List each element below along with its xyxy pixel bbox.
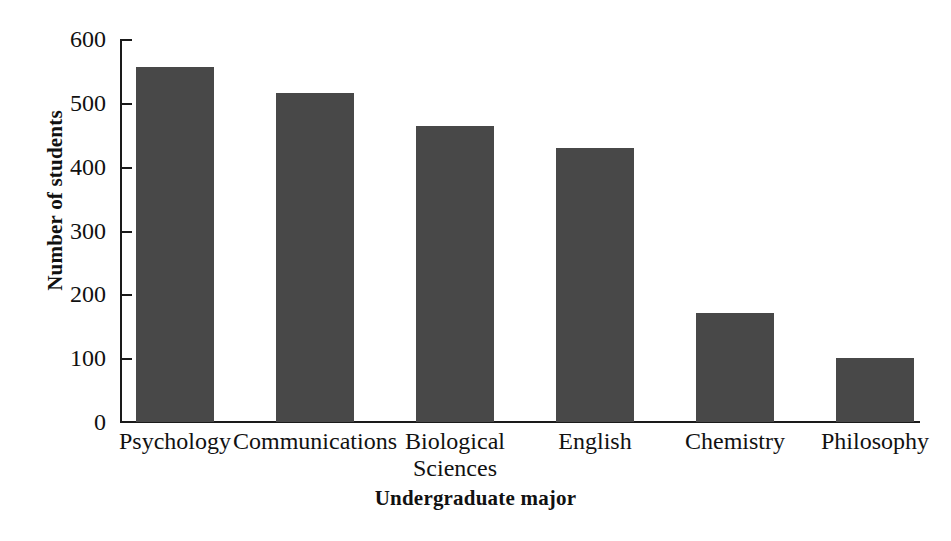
bar-chart-figure: Number of students 0100200300400500600 P… xyxy=(0,0,951,541)
x-axis-category-label: Philosophy xyxy=(790,428,951,455)
bar xyxy=(416,126,494,422)
bar xyxy=(696,313,774,422)
bar xyxy=(836,358,914,422)
bar xyxy=(136,67,214,422)
x-axis-title: Undergraduate major xyxy=(0,486,951,511)
bar xyxy=(276,93,354,422)
bar xyxy=(556,148,634,422)
